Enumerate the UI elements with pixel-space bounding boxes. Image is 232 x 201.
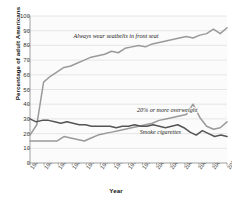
- chart-container: Percentage of adult Americans Year 01020…: [0, 0, 232, 201]
- series-label-3: Smoke cigarettes: [140, 129, 182, 135]
- plot-area: Always wear seatbelts in front seatAlway…: [0, 0, 232, 201]
- series-label-2: 20% or more overweight: [137, 107, 198, 113]
- series-label-1: Always wear seatbelts in front seat: [73, 33, 159, 39]
